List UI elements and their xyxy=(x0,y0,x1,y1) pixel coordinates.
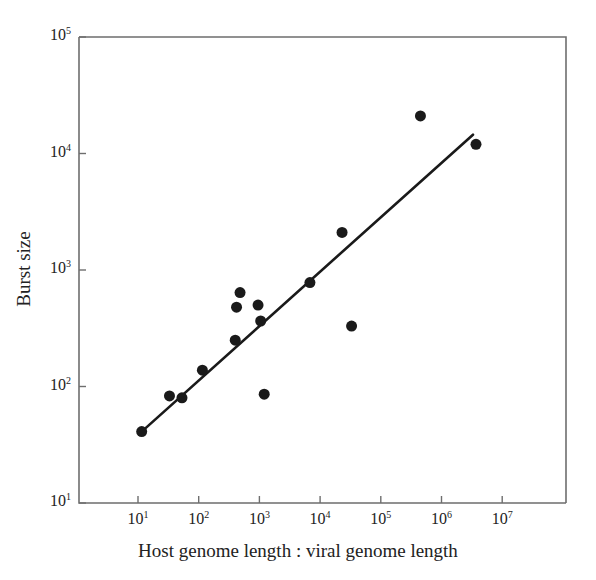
data-point xyxy=(235,287,246,298)
x-axis-ticks xyxy=(138,496,502,503)
data-point xyxy=(255,315,266,326)
chart-figure: 101102103104105106107 101102103104105 Ho… xyxy=(0,0,596,580)
data-point xyxy=(136,426,147,437)
data-point xyxy=(230,335,241,346)
y-axis-ticks xyxy=(79,37,86,503)
y-tick-label: 104 xyxy=(23,143,71,161)
data-points xyxy=(136,110,481,437)
data-point xyxy=(164,390,175,401)
x-tick-label: 105 xyxy=(357,510,405,528)
x-tick-label: 104 xyxy=(296,510,344,528)
data-point xyxy=(259,389,270,400)
data-point xyxy=(470,139,481,150)
x-tick-label: 103 xyxy=(235,510,283,528)
y-tick-label: 102 xyxy=(23,376,71,394)
data-point xyxy=(197,365,208,376)
x-axis-title: Host genome length : viral genome length xyxy=(0,540,596,562)
y-tick-label: 105 xyxy=(23,26,71,44)
y-tick-label: 101 xyxy=(23,492,71,510)
x-tick-label: 107 xyxy=(478,510,526,528)
x-tick-label: 106 xyxy=(418,510,466,528)
scatter-plot-canvas xyxy=(0,0,596,580)
data-point xyxy=(231,302,242,313)
y-axis-title: Burst size xyxy=(13,199,35,339)
data-point xyxy=(304,277,315,288)
x-tick-label: 102 xyxy=(175,510,223,528)
data-point xyxy=(337,227,348,238)
data-point xyxy=(346,321,357,332)
data-point xyxy=(415,110,426,121)
data-point xyxy=(176,392,187,403)
x-tick-label: 101 xyxy=(114,510,162,528)
data-point xyxy=(253,300,264,311)
